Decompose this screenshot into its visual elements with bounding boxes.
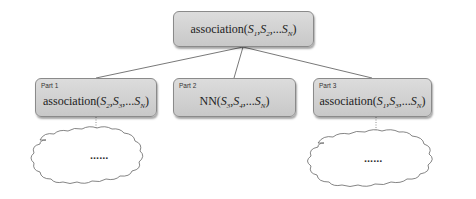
ellipsis: ,... <box>122 94 134 108</box>
func-name: association <box>43 94 96 108</box>
part-2-formula: NN(S3,S4,...SN) <box>174 94 295 109</box>
connector-root-part1 <box>96 47 243 78</box>
part-3-node: Part 3 association(S1,S3,...SN) <box>313 78 432 117</box>
part-3-formula: association(S1,S3,...SN) <box>314 94 431 109</box>
root-node-association: association(S1,S2,...SN) <box>173 11 314 47</box>
part-label: Part 3 <box>319 82 336 89</box>
ellipsis: ,... <box>399 94 411 108</box>
connector-root-part2 <box>234 47 243 78</box>
cloud-shape-left <box>31 127 143 184</box>
part-1-node: Part 1 association(S2,S3,...SN) <box>35 78 157 117</box>
ellipsis: ,... <box>270 22 282 36</box>
close-paren: ) <box>422 94 426 108</box>
root-formula: association(S1,S2,...SN) <box>174 22 313 37</box>
close-paren: ) <box>266 94 270 108</box>
part-1-formula: association(S2,S3,...SN) <box>36 94 156 109</box>
close-paren: ) <box>145 94 149 108</box>
part-2-node: Part 2 NN(S3,S4,...SN) <box>173 78 296 117</box>
ellipsis: ,... <box>243 94 255 108</box>
part-label: Part 2 <box>179 82 196 89</box>
root-func-name: association <box>191 22 244 36</box>
part-label: Part 1 <box>41 82 58 89</box>
func-name: NN <box>199 94 216 108</box>
cloud-left-ellipsis: ...... <box>90 149 108 161</box>
cloud-right-ellipsis: ...... <box>364 152 382 164</box>
close-paren: ) <box>293 22 297 36</box>
func-name: association <box>320 94 373 108</box>
connector-root-part3 <box>243 47 372 78</box>
